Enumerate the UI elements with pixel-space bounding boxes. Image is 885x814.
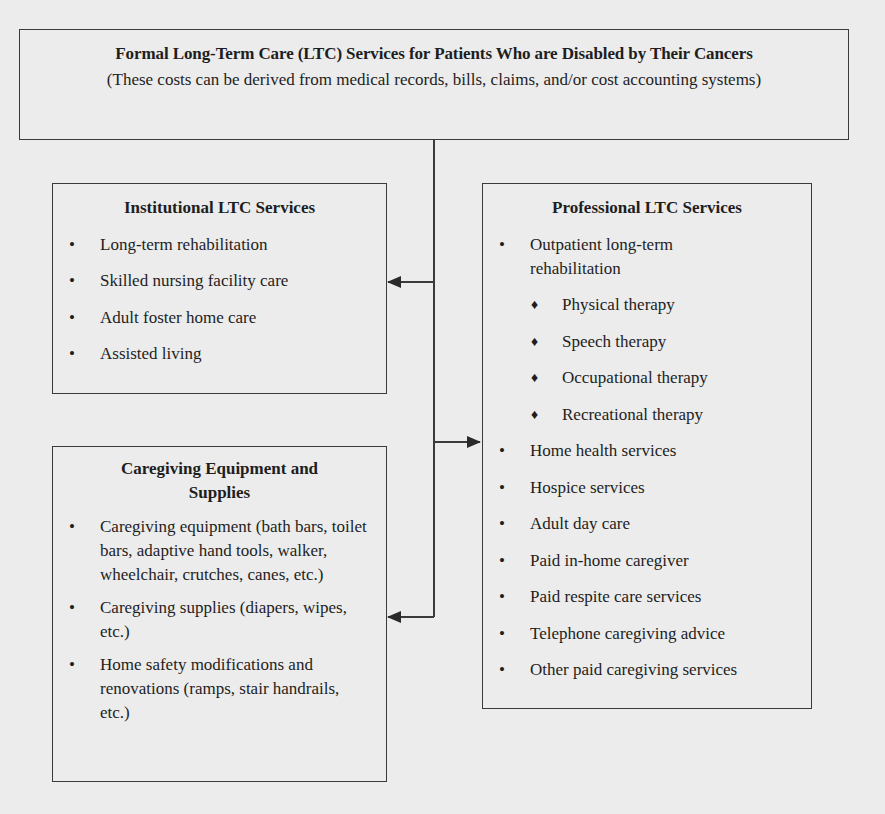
professional-title: Professional LTC Services bbox=[483, 196, 811, 220]
professional-ltc-box: Professional LTC Services •Outpatient lo… bbox=[482, 183, 812, 709]
list-item: •Telephone caregiving advice bbox=[483, 622, 811, 646]
list-item: •Adult day care bbox=[483, 512, 811, 536]
bullet-icon: • bbox=[499, 622, 505, 646]
bullet-icon: • bbox=[69, 306, 75, 330]
diamond-icon: ♦ bbox=[531, 366, 538, 390]
caregiving-title: Caregiving Equipment and Supplies bbox=[53, 457, 386, 505]
diamond-icon: ♦ bbox=[531, 403, 538, 427]
institutional-title: Institutional LTC Services bbox=[53, 196, 386, 220]
bullet-icon: • bbox=[69, 233, 75, 257]
diamond-icon: ♦ bbox=[531, 330, 538, 354]
list-item: •Hospice services bbox=[483, 476, 811, 500]
bullet-icon: • bbox=[499, 233, 505, 257]
sub-list-item: ♦Physical therapy bbox=[483, 293, 811, 317]
list-item: •Outpatient long-term rehabilitation bbox=[483, 233, 811, 281]
list-item: •Home health services bbox=[483, 439, 811, 463]
list-item: •Adult foster home care bbox=[53, 306, 386, 330]
bullet-icon: • bbox=[499, 549, 505, 573]
list-item: •Assisted living bbox=[53, 342, 386, 366]
sub-list-item: ♦Speech therapy bbox=[483, 330, 811, 354]
list-item: •Caregiving equipment (bath bars, toilet… bbox=[53, 515, 386, 587]
bullet-icon: • bbox=[499, 658, 505, 682]
top-category-box: Formal Long-Term Care (LTC) Services for… bbox=[19, 29, 849, 140]
sub-list-item: ♦Occupational therapy bbox=[483, 366, 811, 390]
list-item: •Paid in-home caregiver bbox=[483, 549, 811, 573]
bullet-icon: • bbox=[499, 439, 505, 463]
sub-list-item: ♦Recreational therapy bbox=[483, 403, 811, 427]
bullet-icon: • bbox=[69, 653, 75, 677]
arrow-left-icon bbox=[387, 611, 401, 623]
diagram-title: Formal Long-Term Care (LTC) Services for… bbox=[20, 44, 848, 64]
bullet-icon: • bbox=[69, 596, 75, 620]
arrow-left-icon bbox=[387, 276, 401, 288]
bullet-icon: • bbox=[69, 515, 75, 539]
list-item: •Caregiving supplies (diapers, wipes, et… bbox=[53, 596, 386, 644]
bullet-icon: • bbox=[499, 512, 505, 536]
list-item: •Home safety modifications and renovatio… bbox=[53, 653, 386, 725]
diamond-icon: ♦ bbox=[531, 293, 538, 317]
bullet-icon: • bbox=[499, 476, 505, 500]
institutional-ltc-box: Institutional LTC Services •Long-term re… bbox=[52, 183, 387, 394]
bullet-icon: • bbox=[499, 585, 505, 609]
diagram-subtitle: (These costs can be derived from medical… bbox=[84, 70, 784, 90]
list-item: •Skilled nursing facility care bbox=[53, 269, 386, 293]
caregiving-equipment-box: Caregiving Equipment and Supplies •Careg… bbox=[52, 446, 387, 782]
bullet-icon: • bbox=[69, 269, 75, 293]
arrow-right-icon bbox=[467, 436, 481, 448]
list-item: •Paid respite care services bbox=[483, 585, 811, 609]
connector-vertical bbox=[433, 139, 435, 617]
list-item: •Other paid caregiving services bbox=[483, 658, 811, 682]
list-item: •Long-term rehabilitation bbox=[53, 233, 386, 257]
bullet-icon: • bbox=[69, 342, 75, 366]
